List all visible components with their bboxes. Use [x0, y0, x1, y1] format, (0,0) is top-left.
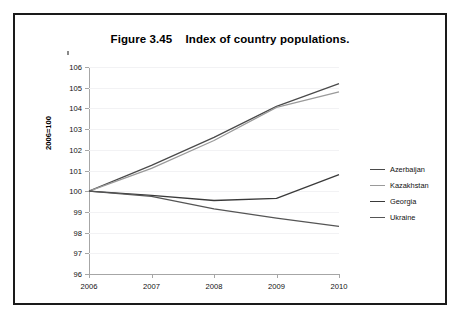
y-axis-tick-label: 104 — [69, 104, 82, 113]
y-axis-tick-label: 101 — [69, 166, 82, 175]
chart-area: 2006=100 10610510410310210110099989796 2… — [15, 15, 449, 307]
y-axis-tick-label: 98 — [74, 228, 82, 237]
legend-swatch-icon — [370, 169, 385, 170]
legend-label: Ukraine — [390, 213, 415, 222]
y-axis-tick-label: 106 — [69, 63, 82, 72]
x-axis-tick-label: 2007 — [143, 282, 160, 291]
x-axis-tick-label: 2009 — [268, 282, 285, 291]
y-axis-tick-label: 103 — [69, 125, 82, 134]
legend-swatch-icon — [370, 185, 385, 186]
y-axis-title: 2006=100 — [44, 116, 53, 150]
figure-frame: Figure 3.45 Index of country populations… — [13, 13, 447, 305]
x-axis-tick-label: 2010 — [331, 282, 348, 291]
x-axis-tick-label: 2008 — [206, 282, 223, 291]
legend-item-ukraine[interactable]: Ukraine — [370, 211, 448, 224]
series-lines — [89, 67, 339, 274]
plot-area: 10610510410310210110099989796 2006200720… — [89, 67, 339, 274]
legend-item-azerbaijan[interactable]: Azerbaijan — [370, 163, 448, 176]
x-axis-tick — [339, 274, 340, 278]
legend-label: Georgia — [390, 197, 416, 206]
x-axis-tick — [277, 274, 278, 278]
legend-swatch-icon — [370, 217, 385, 218]
y-axis-tick-label: 100 — [69, 187, 82, 196]
series-line-ukraine — [89, 191, 339, 226]
y-axis-tick-label: 96 — [74, 270, 82, 279]
legend-item-kazakhstan[interactable]: Kazakhstan — [370, 179, 448, 192]
y-axis-tick-label: 105 — [69, 83, 82, 92]
legend-swatch-icon — [370, 201, 385, 202]
x-axis-tick — [89, 274, 90, 278]
y-axis-tick-label: 99 — [74, 207, 82, 216]
y-axis-tick-label: 97 — [74, 249, 82, 258]
legend-label: Azerbaijan — [390, 165, 425, 174]
x-axis-tick — [152, 274, 153, 278]
series-line-azerbaijan — [89, 84, 339, 192]
y-axis-tick-label: 102 — [69, 145, 82, 154]
legend: AzerbaijanKazakhstanGeorgiaUkraine — [370, 163, 448, 227]
legend-item-georgia[interactable]: Georgia — [370, 195, 448, 208]
legend-label: Kazakhstan — [390, 181, 429, 190]
series-line-georgia — [89, 175, 339, 201]
x-axis-tick — [214, 274, 215, 278]
x-axis-tick-label: 2006 — [81, 282, 98, 291]
